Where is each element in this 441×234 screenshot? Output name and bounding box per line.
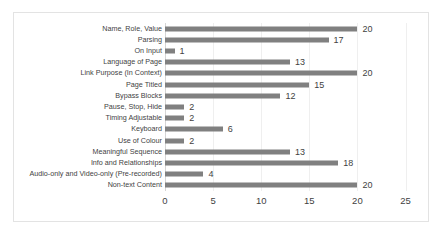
chart-row: Name, Role, Value20 (14, 23, 430, 34)
bar-value-label: 13 (295, 57, 305, 67)
chart-row: Meaningful Sequence13 (14, 146, 430, 157)
chart-row: Link Purpose (In Context)20 (14, 68, 430, 79)
category-label: Pause, Stop, Hide (104, 103, 162, 111)
bar (165, 172, 203, 177)
chart-row: Bypass Blocks12 (14, 90, 430, 101)
bar (165, 116, 184, 121)
chart-row: Use of Colour2 (14, 135, 430, 146)
bar-value-label: 13 (295, 147, 305, 157)
bar-value-label: 2 (189, 136, 194, 146)
x-axis-tick-label: 5 (210, 195, 215, 206)
x-axis-tick-label: 10 (256, 195, 267, 206)
x-axis-tick-label: 0 (162, 195, 167, 206)
bar-value-label: 20 (362, 68, 372, 78)
category-label: Parsing (138, 36, 162, 44)
bar (165, 60, 290, 65)
category-label: Bypass Blocks (115, 92, 162, 100)
bar-value-label: 15 (314, 80, 324, 90)
x-axis-tick-label: 25 (400, 195, 411, 206)
chart-row: Info and Relationships18 (14, 157, 430, 168)
bar (165, 104, 184, 109)
bar-value-label: 1 (180, 46, 185, 56)
chart-row: Page Titled15 (14, 79, 430, 90)
bar-value-label: 20 (362, 24, 372, 34)
chart-row: On Input1 (14, 45, 430, 56)
chart-row: Non-text Content20 (14, 180, 430, 191)
category-label: Link Purpose (In Context) (81, 69, 163, 77)
category-label: Timing Adjustable (106, 114, 162, 122)
chart-container: Name, Role, Value20Parsing17On Input1Lan… (13, 12, 429, 222)
bar (165, 93, 280, 98)
bar (165, 149, 290, 154)
bar (165, 71, 357, 76)
bar (165, 183, 357, 188)
category-label: Keyboard (131, 125, 162, 133)
category-label: On Input (134, 47, 162, 55)
bar (165, 26, 357, 31)
bar-value-label: 17 (334, 35, 344, 45)
x-axis-tick-label: 20 (352, 195, 363, 206)
bar (165, 37, 329, 42)
chart-row: Pause, Stop, Hide2 (14, 101, 430, 112)
bar-value-label: 4 (208, 169, 213, 179)
category-label: Meaningful Sequence (92, 148, 162, 156)
bar (165, 127, 223, 132)
x-axis-tick-label: 15 (304, 195, 315, 206)
category-label: Audio-only and Video-only (Pre-recorded) (29, 170, 162, 178)
bar-value-label: 18 (343, 158, 353, 168)
bar (165, 138, 184, 143)
chart-row: Language of Page13 (14, 57, 430, 68)
chart-row: Audio-only and Video-only (Pre-recorded)… (14, 169, 430, 180)
chart-row: Keyboard6 (14, 124, 430, 135)
bar-value-label: 2 (189, 102, 194, 112)
bar (165, 48, 175, 53)
category-label: Non-text Content (108, 181, 162, 189)
bar-value-label: 12 (285, 91, 295, 101)
category-label: Page Titled (126, 81, 162, 89)
chart-row: Timing Adjustable2 (14, 113, 430, 124)
plot-area: Name, Role, Value20Parsing17On Input1Lan… (14, 13, 430, 223)
category-label: Use of Colour (118, 137, 162, 145)
bar (165, 160, 338, 165)
chart-row: Parsing17 (14, 34, 430, 45)
category-label: Language of Page (103, 58, 162, 66)
bar-value-label: 2 (189, 113, 194, 123)
bar-value-label: 20 (362, 180, 372, 190)
category-label: Info and Relationships (91, 159, 162, 167)
bar (165, 82, 309, 87)
category-label: Name, Role, Value (102, 25, 162, 33)
bar-value-label: 6 (228, 124, 233, 134)
